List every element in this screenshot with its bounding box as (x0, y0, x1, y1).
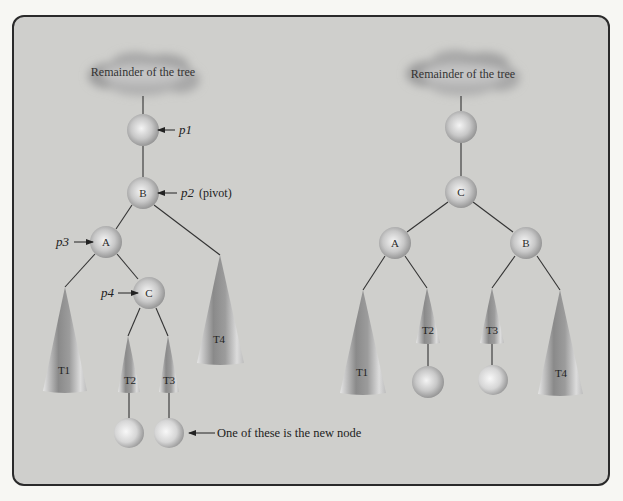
subtree-T2: T2 (416, 288, 440, 344)
new-node-annotation: One of these is the new node (217, 426, 362, 440)
node-C: C (445, 176, 477, 208)
node-p1 (127, 114, 159, 146)
leaf-node-under-T2 (412, 366, 444, 398)
svg-text:T4: T4 (555, 367, 568, 379)
node-top (445, 111, 477, 143)
svg-text:T3: T3 (486, 324, 499, 336)
subtree-T1: T1 (340, 290, 386, 395)
svg-text:C: C (457, 186, 464, 198)
leaf-node-under-T3 (478, 365, 508, 395)
leaf-node-left (114, 418, 144, 448)
pointer-label-p1: p1 (178, 122, 192, 137)
cloud-label: Remainder of the tree (411, 67, 515, 81)
subtree-T3: T3 (159, 336, 179, 393)
subtree-T4: T4 (197, 255, 244, 365)
svg-text:C: C (145, 287, 152, 299)
subtree-T2: T2 (118, 336, 140, 393)
subtree-T3: T3 (480, 288, 504, 344)
pointer-label-pivot: (pivot) (199, 186, 232, 200)
node-A: A (90, 226, 122, 258)
svg-text:A: A (102, 236, 110, 248)
subtree-T1: T1 (43, 287, 87, 393)
left-tree: Remainder of the tree T1 T2 T3 (43, 52, 362, 448)
svg-text:T3: T3 (163, 374, 176, 386)
svg-text:B: B (139, 187, 146, 199)
node-B: B (510, 227, 542, 259)
cloud-label: Remainder of the tree (91, 65, 195, 79)
leaf-node-right (154, 418, 184, 448)
pointer-label-p4: p4 (100, 285, 115, 300)
svg-text:B: B (522, 237, 529, 249)
right-tree: Remainder of the tree T1 T2 T3 (340, 50, 583, 398)
svg-text:T4: T4 (213, 333, 226, 345)
pointer-label-p3: p3 (55, 234, 70, 249)
avl-rotation-diagram: Remainder of the tree T1 T2 T3 (0, 0, 623, 501)
node-B: B (127, 177, 159, 209)
subtree-T4: T4 (538, 290, 583, 396)
svg-text:T1: T1 (58, 364, 70, 376)
pointer-label-p2: p2 (180, 185, 195, 200)
svg-text:T2: T2 (124, 374, 136, 386)
svg-text:T2: T2 (422, 324, 434, 336)
svg-text:A: A (391, 237, 399, 249)
svg-text:T1: T1 (356, 366, 368, 378)
node-A: A (379, 227, 411, 259)
